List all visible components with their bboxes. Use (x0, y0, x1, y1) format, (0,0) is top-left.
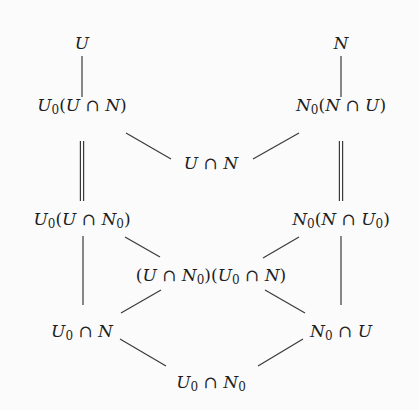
node-U0-cap-N0: U0 ∩ N0 (176, 374, 246, 391)
node-N0-N-cap-U0: N0(N ∩ U0) (292, 211, 390, 228)
node-U0-cap-N: U0 ∩ N (51, 323, 113, 340)
edge-N0_NcapU-UcapN (253, 133, 299, 159)
node-N0-cap-U: N0 ∩ U (310, 323, 372, 340)
node-N0-N-cap-U: N0(N ∩ U) (296, 97, 386, 114)
edge-middle-U0capN (121, 290, 161, 313)
edge-U0_UcapN-UcapN (126, 133, 171, 159)
edge-N0capU-U0capN0 (258, 339, 303, 366)
node-U-cap-N: U ∩ N (184, 155, 238, 172)
edge-U0capN-U0capN0 (120, 339, 166, 366)
node-U0-U-cap-N: U0(U ∩ N) (37, 97, 127, 114)
edges-layer (0, 0, 419, 410)
edge-middle-N0capU (265, 290, 305, 313)
node-U: U (75, 35, 89, 52)
node-N: N (334, 35, 349, 52)
edge-N0_NcapU0-middle (263, 237, 299, 258)
node-middle-product: (U ∩ N0)(U0 ∩ N) (136, 267, 286, 284)
node-U0-U-cap-N0: U0(U ∩ N0) (33, 211, 130, 228)
lattice-diagram: U N U0(U ∩ N) N0(N ∩ U) U ∩ N U0(U ∩ N0)… (0, 0, 419, 410)
edge-U0_UcapN0-middle (125, 237, 160, 257)
